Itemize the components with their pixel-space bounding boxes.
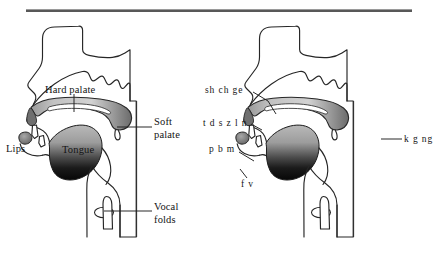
label-bilabial: p b m	[209, 144, 235, 154]
label-vocal-folds-line1: Vocal	[154, 201, 178, 212]
label-lips: Lips	[6, 143, 25, 154]
label-alveolar: t d s z l n	[203, 118, 247, 128]
label-soft-palate-line1: Soft	[154, 116, 172, 127]
label-hard-palate: Hard palate	[45, 84, 96, 95]
label-velar: k g ng	[404, 134, 433, 144]
anatomy-diagram: Hard palate Soft palate Lips Tongue Voca…	[6, 26, 180, 237]
top-divider-rule	[26, 9, 412, 12]
label-vocal-folds-line2: folds	[154, 214, 176, 225]
label-postalveolar: sh ch ge	[205, 85, 243, 95]
leader-bilabial	[239, 152, 254, 161]
articulation-diagram: sh ch ge t d s z l n p b m f v k g ng	[203, 26, 433, 237]
label-tongue: Tongue	[62, 144, 94, 155]
figure-container: Hard palate Soft palate Lips Tongue Voca…	[0, 0, 433, 262]
label-labiodental: f v	[241, 179, 254, 189]
leader-labiodental	[240, 169, 247, 178]
label-soft-palate-line2: palate	[154, 129, 180, 140]
vocal-tract-figure: Hard palate Soft palate Lips Tongue Voca…	[0, 0, 433, 262]
